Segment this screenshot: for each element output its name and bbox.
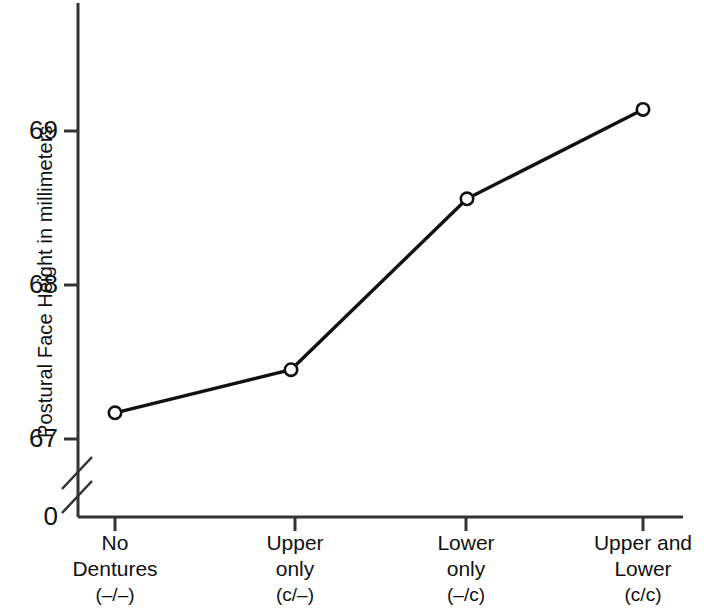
x-label-line1: Lower [376,530,556,556]
y-tick-label-68: 68 [14,271,58,297]
x-tick-label-lower-only: Lower only (–/c) [376,530,556,608]
x-label-line2: Dentures [25,556,205,582]
x-label-line3: (c/–) [205,582,385,608]
data-point-marker[interactable] [109,407,121,419]
x-label-line1: No [25,530,205,556]
x-tick-label-upper-only: Upper only (c/–) [205,530,385,608]
x-label-line3: (–/–) [25,582,205,608]
y-axis-origin-label: 0 [14,503,58,529]
y-axis-title: Postural Face Height in millimeters [30,0,60,438]
x-label-line2: only [205,556,385,582]
x-label-line2: Lower [553,556,704,582]
x-label-line2: only [376,556,556,582]
line-chart-plot [0,0,704,608]
data-point-marker[interactable] [637,103,649,115]
y-tick-label-67: 67 [14,425,58,451]
x-tick-label-upper-and-lower: Upper and Lower (c/c) [553,530,704,608]
data-point-marker[interactable] [461,193,473,205]
x-label-line3: (–/c) [376,582,556,608]
x-tick-label-no-dentures: No Dentures (–/–) [25,530,205,608]
x-label-line3: (c/c) [553,582,704,608]
chart-figure: Postural Face Height in millimeters 69 6… [0,0,704,608]
data-series-line [115,109,643,412]
y-tick-label-69: 69 [14,117,58,143]
x-label-line1: Upper [205,530,385,556]
data-point-marker[interactable] [285,364,297,376]
x-label-line1: Upper and [553,530,704,556]
